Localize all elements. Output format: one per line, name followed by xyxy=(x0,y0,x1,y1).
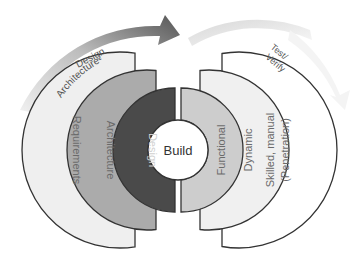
dynamic-ring-label: Dynamic xyxy=(242,128,254,171)
functional-ring-label: Functional xyxy=(215,125,227,176)
architecture-ring-label: Architecture xyxy=(105,121,117,180)
skilled-manual-ring-label: Skilled, manual xyxy=(264,113,276,188)
requirements-ring-label: Requirements xyxy=(71,116,83,185)
penetration-ring-label: (Penetration) xyxy=(279,118,291,182)
design-ring-label: Design xyxy=(147,133,159,167)
build-label: Build xyxy=(164,143,193,158)
sdlc-diagram: Build Architecture- Design Test/ Verify … xyxy=(0,0,353,260)
